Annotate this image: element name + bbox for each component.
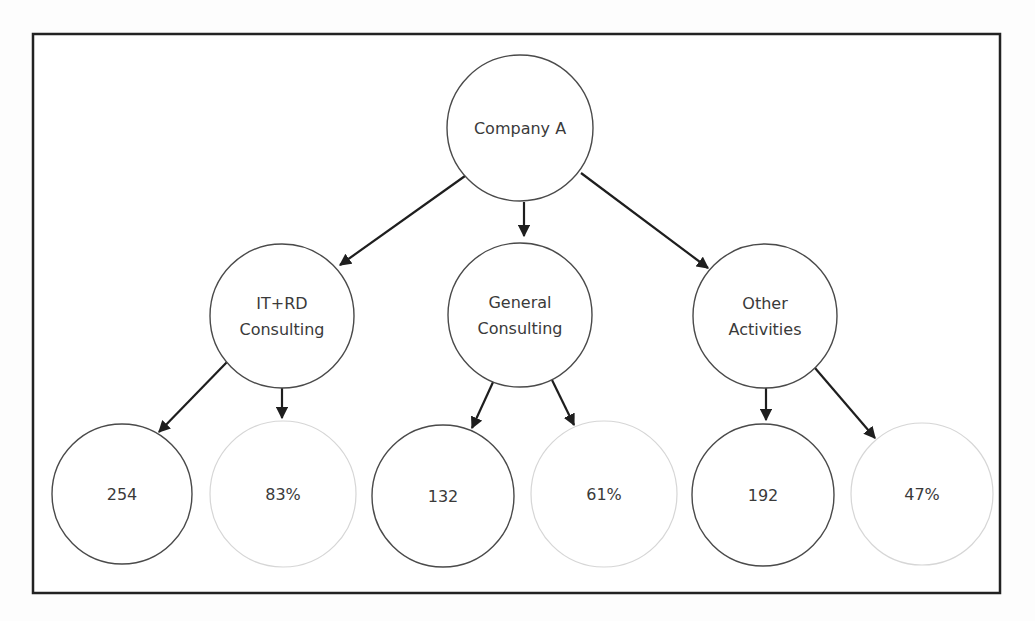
node-label: General [488,293,551,312]
node-label: 83% [265,485,301,504]
node-it-rd-count: 254 [52,424,192,564]
node-other-activities: OtherActivities [693,244,837,388]
node-label: Other [742,294,788,313]
node-it-rd-percent: 83% [210,421,356,567]
node-label: Activities [729,320,802,339]
node-general-percent: 61% [531,421,677,567]
node-company-a: Company A [447,55,593,201]
node-general-count: 132 [372,425,514,567]
node-circle [448,243,592,387]
org-tree-diagram: Company AIT+RDConsultingGeneralConsultin… [0,0,1035,621]
node-label: Consulting [477,319,562,338]
node-label: IT+RD [256,294,307,313]
node-label: 132 [428,487,459,506]
node-label: 254 [107,485,138,504]
node-general-consulting: GeneralConsulting [448,243,592,387]
node-other-percent: 47% [851,423,993,565]
node-other-count: 192 [692,424,834,566]
node-label: 61% [586,485,622,504]
node-label: 47% [904,485,940,504]
node-it-rd-consulting: IT+RDConsulting [210,244,354,388]
node-label: Company A [474,119,566,138]
node-label: Consulting [239,320,324,339]
node-label: 192 [748,486,779,505]
node-circle [693,244,837,388]
node-circle [210,244,354,388]
